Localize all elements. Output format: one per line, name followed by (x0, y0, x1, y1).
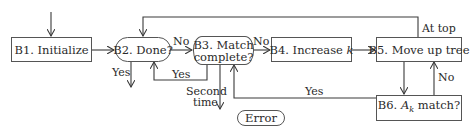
node-b5-move-up-tree: B5. Move up tree (376, 37, 462, 62)
edge-label-b3-b2-yes: Yes (172, 69, 190, 80)
node-b6-ak-match: B6. Ak match? (376, 95, 462, 121)
edge-label-at-top: At top (422, 23, 456, 34)
edge-label-b6-b3-yes: Yes (305, 86, 323, 97)
node-b6-suffix: match? (414, 98, 460, 112)
node-b4-var: k (347, 43, 354, 57)
node-b6-prefix: B6. (378, 98, 401, 112)
node-b3-match-complete: B3. Match complete? (193, 36, 254, 65)
edge-label-b3-b4-no: No (253, 36, 269, 47)
node-b1-label: B1. Initialize (14, 44, 88, 56)
node-b1-initialize: B1. Initialize (11, 37, 92, 62)
edge-label-b6-b5-no: No (438, 72, 454, 83)
node-b4-increase-k: B4. Increase k (271, 37, 352, 62)
flowchart: B1. Initialize B2. Done? B3. Match compl… (0, 0, 472, 132)
node-b3-label-line1: B3. Match (193, 39, 253, 51)
node-error: Error (237, 110, 285, 126)
node-error-label: Error (245, 112, 277, 124)
node-b2-label: B2. Done? (113, 44, 173, 56)
node-b4-label: B4. Increase k (270, 44, 354, 56)
node-b5-label: B5. Move up tree (369, 44, 470, 56)
node-b2-done: B2. Done? (115, 37, 171, 62)
edge-label-b2-yes: Yes (112, 67, 130, 78)
edge-label-time: time (193, 97, 218, 108)
edge-label-b2-b3-no: No (173, 36, 189, 47)
node-b6-var: A (401, 98, 409, 112)
node-b4-prefix: B4. Increase (270, 43, 347, 57)
node-b3-label-line2: complete? (194, 51, 254, 63)
node-b6-label: B6. Ak match? (378, 99, 460, 116)
